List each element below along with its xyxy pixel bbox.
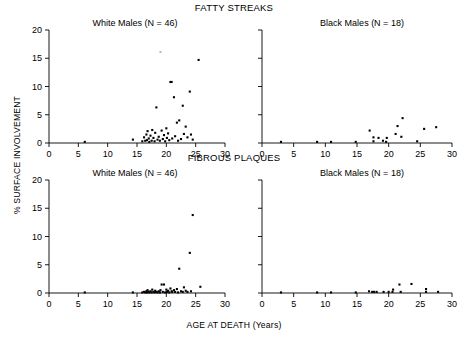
x-tick-label-fatty-white-30: 30 <box>220 149 230 159</box>
x-tick-label-fatty-black-25: 25 <box>415 149 425 159</box>
x-tick-label-fibrous-white-25: 25 <box>191 299 201 309</box>
x-tick-label-fatty-black-30: 30 <box>447 149 457 159</box>
data-point <box>154 132 156 134</box>
data-point <box>141 140 143 142</box>
data-point <box>400 136 402 138</box>
data-point <box>151 140 153 142</box>
data-point <box>143 136 145 138</box>
data-point <box>176 288 178 290</box>
data-point <box>183 286 185 288</box>
data-point <box>383 291 385 293</box>
data-point <box>145 133 147 135</box>
data-point <box>166 137 168 139</box>
data-point <box>382 140 384 142</box>
x-tick-label-fibrous-black-5: 5 <box>291 299 296 309</box>
x-tick-label-fibrous-white-0: 0 <box>46 299 51 309</box>
data-point <box>173 96 175 98</box>
data-point <box>177 140 179 142</box>
data-point <box>152 137 154 139</box>
data-point <box>437 291 439 293</box>
y-tick-label-fatty-white-0: 0 <box>37 138 42 148</box>
x-tick-label-fatty-white-25: 25 <box>191 149 201 159</box>
data-point <box>162 138 164 140</box>
data-point <box>174 291 176 293</box>
data-point <box>182 105 184 107</box>
data-point <box>183 133 185 135</box>
data-point <box>161 130 163 132</box>
data-point <box>369 130 371 132</box>
data-point <box>190 133 192 135</box>
data-point <box>372 140 374 142</box>
data-point <box>395 133 397 135</box>
x-tick-label-fibrous-black-0: 0 <box>259 299 264 309</box>
x-tick-label-fibrous-white-5: 5 <box>76 299 81 309</box>
data-point <box>151 289 153 291</box>
data-point <box>163 134 165 136</box>
data-point <box>330 141 332 143</box>
x-tick-label-fibrous-white-20: 20 <box>161 299 171 309</box>
data-point <box>396 125 398 127</box>
data-point <box>400 291 402 293</box>
data-point <box>316 141 318 143</box>
x-tick-label-fibrous-black-20: 20 <box>384 299 394 309</box>
data-point <box>190 290 192 292</box>
data-point <box>159 291 161 293</box>
figure-container: FATTY STREAKS FIBROUS PLAQUES White Male… <box>0 0 468 337</box>
y-tick-label-fatty-white-20: 20 <box>32 25 42 35</box>
data-points-layer <box>84 51 439 294</box>
data-point <box>410 283 412 285</box>
data-point <box>151 129 153 131</box>
data-point <box>377 137 379 139</box>
data-point <box>372 136 374 138</box>
data-point <box>159 51 161 53</box>
data-point <box>178 268 180 270</box>
x-tick-label-fatty-black-5: 5 <box>291 149 296 159</box>
data-point <box>435 126 437 128</box>
data-point <box>198 59 200 61</box>
data-point <box>416 140 418 142</box>
x-tick-label-fibrous-black-30: 30 <box>447 299 457 309</box>
data-point <box>132 291 134 293</box>
y-tick-label-fibrous-white-0: 0 <box>37 288 42 298</box>
x-tick-label-fatty-white-0: 0 <box>46 149 51 159</box>
data-point <box>161 283 163 285</box>
x-tick-label-fibrous-white-10: 10 <box>103 299 113 309</box>
data-point <box>176 122 178 124</box>
x-tick-label-fibrous-black-25: 25 <box>415 299 425 309</box>
data-point <box>386 137 388 139</box>
y-tick-label-fibrous-white-10: 10 <box>32 232 42 242</box>
data-point <box>168 291 170 293</box>
y-tick-label-fibrous-white-20: 20 <box>32 175 42 185</box>
data-point <box>425 288 427 290</box>
data-point <box>199 286 201 288</box>
data-point <box>423 128 425 130</box>
data-point <box>402 117 404 119</box>
plot-canvas: 0510152025300510152005101520253005101520… <box>0 0 468 337</box>
data-point <box>164 140 166 142</box>
data-point <box>388 291 390 293</box>
x-tick-label-fatty-white-20: 20 <box>161 149 171 159</box>
data-point <box>192 139 194 141</box>
data-point <box>154 140 156 142</box>
data-point <box>189 252 191 254</box>
data-point <box>376 291 378 293</box>
data-point <box>178 119 180 121</box>
data-point <box>177 291 179 293</box>
x-tick-label-fatty-black-0: 0 <box>259 149 264 159</box>
data-point <box>168 139 170 141</box>
x-tick-label-fatty-black-20: 20 <box>384 149 394 159</box>
data-point <box>368 290 370 292</box>
data-point <box>171 137 173 139</box>
x-tick-label-fibrous-black-10: 10 <box>320 299 330 309</box>
y-tick-label-fatty-white-15: 15 <box>32 53 42 63</box>
x-tick-label-fatty-white-5: 5 <box>76 149 81 159</box>
x-tick-label-fibrous-white-30: 30 <box>220 299 230 309</box>
y-tick-label-fatty-white-5: 5 <box>37 110 42 120</box>
data-point <box>355 291 357 293</box>
data-point <box>132 139 134 141</box>
data-point <box>425 291 427 293</box>
y-tick-label-fibrous-white-15: 15 <box>32 203 42 213</box>
data-point <box>171 81 173 83</box>
data-point <box>355 141 357 143</box>
x-tick-label-fatty-white-15: 15 <box>132 149 142 159</box>
